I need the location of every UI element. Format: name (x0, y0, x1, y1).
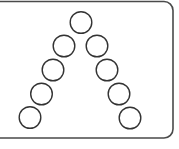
circle-right-2 (96, 59, 118, 81)
circle-left-4 (19, 107, 41, 129)
circle-group (19, 12, 141, 129)
circle-left-2 (42, 59, 64, 81)
circle-right-4 (119, 107, 141, 129)
circle-apex (70, 12, 92, 34)
circle-left-1 (53, 35, 75, 57)
circle-right-1 (86, 35, 108, 57)
diagram-canvas (0, 0, 179, 149)
circle-right-3 (108, 83, 130, 105)
circle-left-3 (31, 83, 53, 105)
